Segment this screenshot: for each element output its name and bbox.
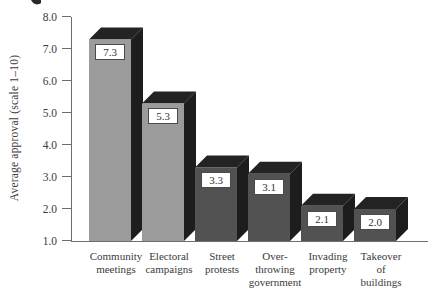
approval-bar-chart-figure: Average approval (scale 1–10) 8.07.06.05… [0,0,435,297]
bar-side-face [290,162,302,241]
y-tick-label: 2.0 [31,203,57,215]
value-label-box: 5.3 [148,108,178,124]
y-axis-title: Average approval (scale 1–10) [8,55,20,201]
x-category-label-line: government [241,276,309,289]
y-tick-label: 5.0 [31,107,57,119]
y-tick-label: 1.0 [31,235,57,247]
value-label-box: 2.0 [360,214,390,230]
x-category-label: Takeoverofbuildings [347,250,415,289]
bar-side-face [184,91,196,241]
y-tick-label: 3.0 [31,171,57,183]
value-label-box: 3.3 [201,172,231,188]
x-category-label-line: buildings [347,276,415,289]
bar-side-face [131,27,143,241]
y-tick-label: 7.0 [31,43,57,55]
y-tick-label: 4.0 [31,139,57,151]
x-category-label-line: of [347,263,415,276]
bar-front-face [89,39,131,241]
bar-side-face [237,155,249,241]
y-tick-label: 8.0 [31,11,57,23]
value-label-box: 2.1 [307,211,337,227]
x-category-label-line: Takeover [347,250,415,263]
cropped-text-artifact [31,0,41,4]
value-label-box: 7.3 [95,44,125,60]
value-label-box: 3.1 [254,179,284,195]
y-tick-label: 6.0 [31,75,57,87]
